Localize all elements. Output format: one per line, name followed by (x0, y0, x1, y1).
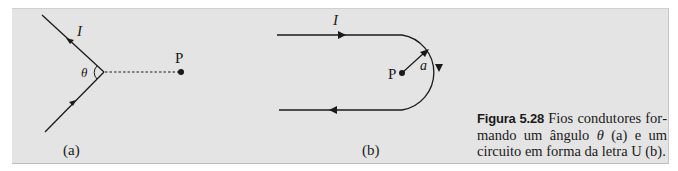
panel-b: I P a (b) (277, 12, 443, 159)
angle-label: θ (81, 65, 88, 80)
angle-arc (94, 66, 97, 79)
panel-a: I θ P (a) (42, 15, 184, 159)
current-label-a: I (76, 23, 83, 39)
sublabel-b: (b) (362, 142, 380, 159)
point-label-b: P (388, 66, 396, 82)
current-arrow-lower (69, 100, 76, 106)
caption-theta-symbol: θ (597, 127, 604, 143)
current-arrow-arc (435, 64, 443, 72)
caption-figure-number: Figura 5.28 (477, 111, 544, 126)
wire-upper (42, 15, 104, 72)
figure-caption: Figura 5.28 Fios condutores for­mando um… (477, 110, 667, 159)
current-label-b: I (332, 12, 339, 28)
u-wire (277, 35, 434, 110)
radius-label: a (420, 58, 427, 73)
sublabel-a: (a) (63, 142, 80, 159)
point-label-a: P (175, 50, 183, 66)
point-p-a (178, 69, 184, 75)
current-arrow-bottom (329, 106, 337, 114)
current-arrow-top (338, 31, 346, 39)
